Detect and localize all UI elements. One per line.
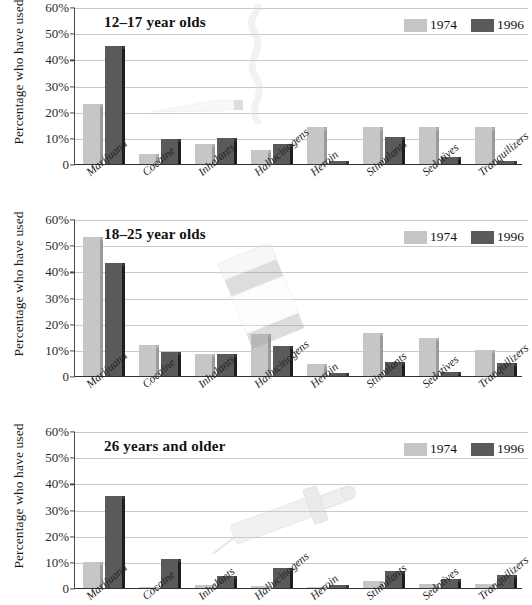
bar-side [514, 578, 517, 588]
y-tick-label: 30% [45, 290, 69, 306]
bar-top [100, 237, 103, 240]
y-tick-label: 10% [45, 555, 69, 571]
chart-panel-3: Percentage who have used26 years and old… [0, 424, 532, 592]
bar-face [83, 237, 100, 376]
bar-top [156, 345, 159, 348]
bar-top [436, 127, 439, 130]
bar-group [131, 432, 187, 588]
y-tick-label: 10% [45, 343, 69, 359]
bar-top [178, 559, 181, 562]
bar-top [380, 333, 383, 336]
bar-side [234, 141, 237, 164]
bar-group [187, 432, 243, 588]
bar-top [436, 338, 439, 341]
bar-group [299, 432, 355, 588]
y-tick-label: 20% [45, 316, 69, 332]
bar-top [492, 127, 495, 130]
bar-side [178, 562, 181, 588]
bar-top [178, 139, 181, 142]
bar-side [458, 582, 461, 588]
bar-group [131, 220, 187, 376]
bar-side [458, 375, 461, 376]
y-tick-label: 0 [63, 157, 70, 173]
y-tick-label: 0 [63, 581, 70, 597]
y-tick-label: 40% [45, 52, 69, 68]
bar-top [346, 161, 349, 164]
bar-top [458, 372, 461, 375]
y-tick-label: 40% [45, 476, 69, 492]
bar-side [402, 574, 405, 588]
bar-top [122, 263, 125, 266]
bar-face [83, 104, 100, 164]
y-tick-label: 50% [45, 26, 69, 42]
y-tick-label: 0 [63, 369, 70, 385]
bar-side [402, 365, 405, 376]
y-tick-label: 10% [45, 131, 69, 147]
bar-top [514, 161, 517, 164]
y-tick-label: 60% [45, 0, 69, 16]
bar-group [187, 220, 243, 376]
y-tick-label: 30% [45, 78, 69, 94]
bar-side [100, 240, 103, 376]
bar-side [458, 160, 461, 164]
y-axis-title: Percentage who have used [11, 0, 27, 147]
bar-top [212, 144, 215, 147]
bar-group [131, 8, 187, 164]
bar-top [324, 127, 327, 130]
x-axis-labels: MarijuanaCocaineInhalantsHallucinogensHe… [74, 378, 532, 424]
bar-top [492, 350, 495, 353]
x-axis-labels: MarijuanaCocaineInhalantsHallucinogensHe… [74, 590, 532, 605]
bar-top [100, 562, 103, 565]
bar-group [299, 220, 355, 376]
bar-top [268, 334, 271, 337]
bar-top [178, 352, 181, 355]
y-axis-title: Percentage who have used [11, 209, 27, 359]
bar-top [234, 576, 237, 579]
bar-top [346, 373, 349, 376]
bar-top [458, 579, 461, 582]
bar-side [514, 366, 517, 376]
chart-panel-1: Percentage who have used12–17 year olds1… [0, 0, 532, 212]
bar-top [380, 127, 383, 130]
y-tick-label: 40% [45, 264, 69, 280]
y-tick-label: 60% [45, 424, 69, 440]
bar-top [458, 157, 461, 160]
bar-side [234, 579, 237, 588]
y-tick-label: 50% [45, 238, 69, 254]
bar-side [178, 142, 181, 164]
bar-top [212, 354, 215, 357]
bar-group [411, 8, 467, 164]
bar-group [411, 432, 467, 588]
bar-top [100, 104, 103, 107]
bar-top [122, 46, 125, 49]
bar-top [122, 496, 125, 499]
bar-group [299, 8, 355, 164]
bar-top [234, 354, 237, 357]
y-tick-label: 50% [45, 450, 69, 466]
x-axis-labels: MarijuanaCocaineInhalantsHallucinogensHe… [74, 166, 532, 212]
y-axis-title: Percentage who have used [11, 421, 27, 571]
bar-group [187, 8, 243, 164]
bar-side [178, 355, 181, 376]
y-tick-label: 20% [45, 104, 69, 120]
bar-group [411, 220, 467, 376]
chart-panel-2: Percentage who have used18–25 year olds1… [0, 212, 532, 424]
y-tick-label: 30% [45, 502, 69, 518]
bar-top [346, 585, 349, 588]
y-tick-label: 20% [45, 528, 69, 544]
bar-marijuana-1974 [83, 237, 103, 376]
bar-top [234, 138, 237, 141]
y-tick-label: 60% [45, 212, 69, 228]
